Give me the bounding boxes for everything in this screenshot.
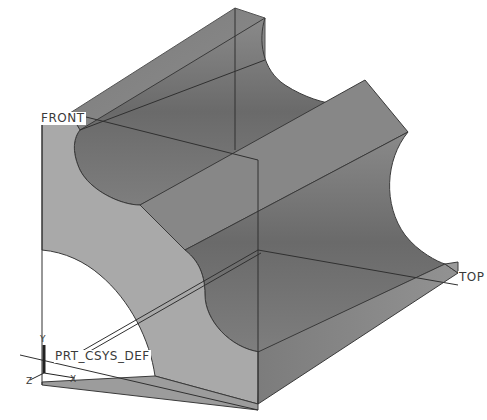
- csys-axis-y-label: Y: [40, 335, 46, 344]
- csys-label[interactable]: PRT_CSYS_DEF: [54, 350, 151, 363]
- csys-axis-z-label: Z: [26, 377, 32, 386]
- datum-label-top[interactable]: TOP: [458, 271, 486, 284]
- datum-label-front[interactable]: FRONT: [40, 112, 86, 125]
- graphics-viewport[interactable]: FRONT TOP PRT_CSYS_DEF Y X Z: [0, 0, 487, 420]
- csys-axis-x-label: X: [70, 375, 76, 384]
